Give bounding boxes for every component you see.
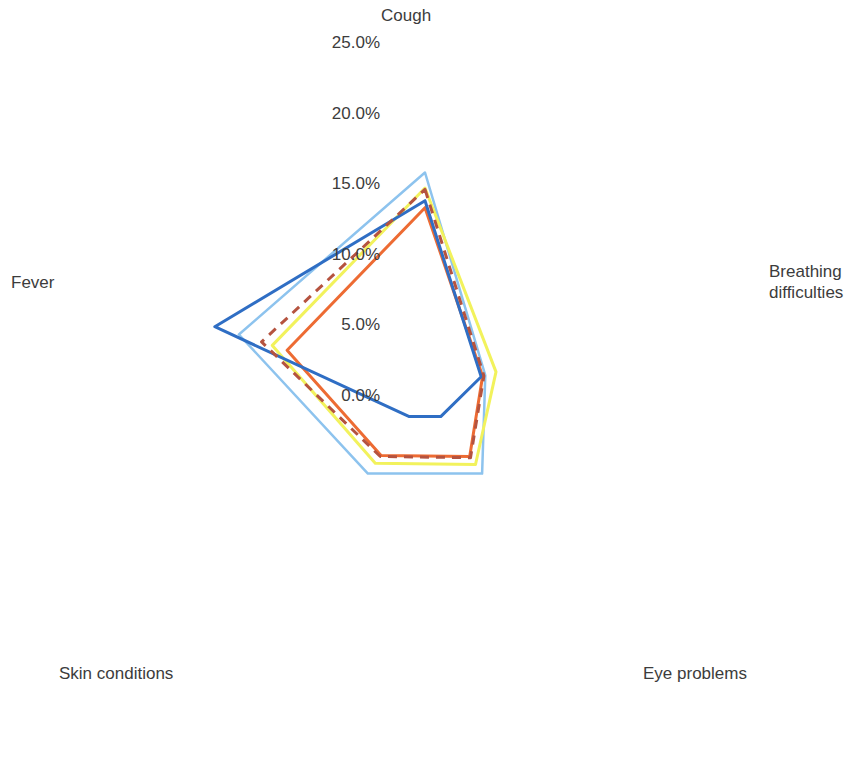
tick-label-0: 0.0% [310, 386, 380, 406]
radar-plot-area [0, 0, 864, 769]
tick-label-15: 15.0% [310, 174, 380, 194]
axis-label-cough: Cough [381, 5, 431, 26]
radar-series-major-construction-and-traffic [272, 188, 496, 465]
axis-label-eye: Eye problems [643, 663, 747, 684]
chart-legend: Overall Persistent traffic Comparator Ma… [0, 712, 864, 769]
radar-chart: Cough Breathing difficulties Eye problem… [0, 0, 864, 769]
axis-label-skin: Skin conditions [59, 663, 173, 684]
axis-label-fever: Fever [11, 272, 54, 293]
tick-label-20: 20.0% [310, 104, 380, 124]
tick-label-25: 25.0% [310, 33, 380, 53]
tick-label-5: 5.0% [310, 315, 380, 335]
axis-label-breathing: Breathing difficulties [769, 261, 843, 304]
tick-label-10: 10.0% [310, 245, 380, 265]
